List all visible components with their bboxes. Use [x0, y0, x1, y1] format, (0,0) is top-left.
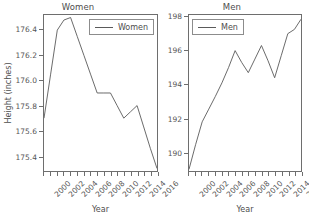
x-tick-mark [43, 172, 44, 176]
y-tick-mark [184, 119, 188, 120]
plot-area-women: Women [43, 14, 158, 172]
x-tick-mark [242, 172, 243, 176]
data-line-men [189, 19, 301, 169]
x-axis-title-men: Year [188, 205, 302, 214]
x-tick-mark [138, 172, 139, 176]
y-tick-label: 175.8 [16, 101, 37, 110]
plot-area-men: Men [188, 14, 302, 172]
legend-line-icon [95, 27, 113, 28]
x-tick-mark [188, 172, 189, 176]
panel-women: Women Height (inches) Women Year 175.417… [0, 0, 162, 223]
x-tick-mark [151, 172, 152, 176]
panel-men: Men Men Year 190192194196198200020022004… [162, 0, 309, 223]
x-tick-mark [50, 172, 51, 176]
x-tick-mark [235, 172, 236, 176]
x-tick-mark [282, 172, 283, 176]
y-tick-mark [184, 16, 188, 17]
x-tick-mark [84, 172, 85, 176]
y-tick-mark [39, 29, 43, 30]
x-tick-mark [158, 172, 159, 176]
x-tick-mark [124, 172, 125, 176]
y-tick-label: 192 [168, 114, 182, 123]
y-axis-title-women: Height (inches) [4, 62, 13, 123]
y-tick-mark [184, 50, 188, 51]
y-tick-label: 190 [168, 149, 182, 158]
x-axis-title-women: Year [43, 205, 158, 214]
x-tick-mark [104, 172, 105, 176]
x-tick-mark [195, 172, 196, 176]
legend-label-men: Men [221, 23, 238, 32]
x-tick-mark [57, 172, 58, 176]
y-tick-label: 176.0 [16, 76, 37, 85]
x-tick-mark [255, 172, 256, 176]
x-tick-mark [144, 172, 145, 176]
panel-title-women: Women [8, 2, 148, 12]
x-tick-mark [289, 172, 290, 176]
x-tick-mark [63, 172, 64, 176]
x-tick-mark [117, 172, 118, 176]
y-tick-mark [184, 84, 188, 85]
x-tick-mark [208, 172, 209, 176]
x-tick-mark [268, 172, 269, 176]
x-tick-mark [262, 172, 263, 176]
figure-root: Women Height (inches) Women Year 175.417… [0, 0, 309, 223]
y-tick-mark [39, 131, 43, 132]
y-tick-label: 198 [168, 11, 182, 20]
x-tick-mark [295, 172, 296, 176]
y-tick-label: 176.2 [16, 50, 37, 59]
x-tick-mark [201, 172, 202, 176]
legend-label-women: Women [118, 23, 148, 32]
x-tick-mark [302, 172, 303, 176]
x-tick-mark [90, 172, 91, 176]
x-tick-mark [275, 172, 276, 176]
y-tick-label: 194 [168, 80, 182, 89]
x-tick-mark [111, 172, 112, 176]
x-tick-mark [70, 172, 71, 176]
y-tick-mark [39, 157, 43, 158]
y-tick-label: 196 [168, 46, 182, 55]
legend-men: Men [192, 19, 244, 35]
panel-title-men: Men [162, 2, 302, 12]
x-tick-mark [97, 172, 98, 176]
y-tick-mark [39, 80, 43, 81]
x-tick-mark [222, 172, 223, 176]
y-tick-mark [39, 106, 43, 107]
y-tick-mark [184, 153, 188, 154]
x-tick-mark [228, 172, 229, 176]
y-tick-label: 176.4 [16, 25, 37, 34]
x-tick-mark [77, 172, 78, 176]
y-tick-label: 175.4 [16, 152, 37, 161]
line-chart-men [189, 15, 301, 171]
data-line-women [44, 18, 157, 169]
legend-women: Women [89, 19, 154, 35]
x-tick-mark [131, 172, 132, 176]
line-chart-women [44, 15, 157, 171]
y-tick-label: 175.6 [16, 127, 37, 136]
y-tick-mark [39, 55, 43, 56]
x-tick-mark [248, 172, 249, 176]
legend-line-icon [198, 27, 216, 28]
x-tick-mark [215, 172, 216, 176]
